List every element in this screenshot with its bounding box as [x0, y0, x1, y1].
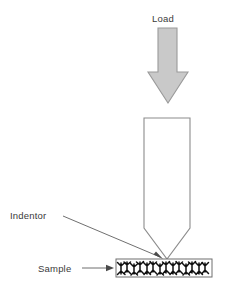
load-arrow-icon — [148, 28, 188, 103]
indentor-shape — [144, 118, 190, 259]
figure-canvas: Load — [0, 0, 229, 293]
indentation-test-figure: Load — [0, 0, 229, 293]
load-label: Load — [152, 13, 174, 24]
sample-label: Sample — [38, 263, 71, 274]
sample-leader-arrowhead — [106, 265, 114, 271]
indentor-label: Indentor — [10, 210, 46, 221]
